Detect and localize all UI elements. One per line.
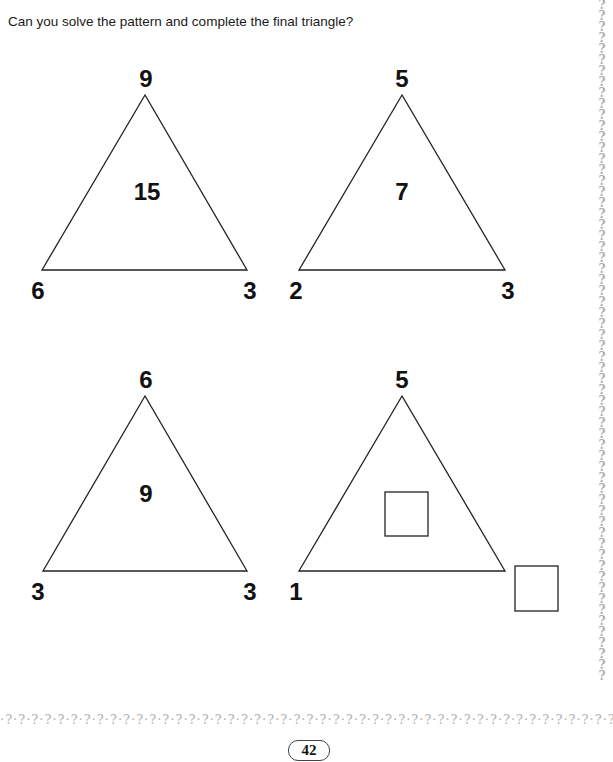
triangle-4-top-number: 5: [395, 366, 408, 393]
triangle-puzzle: 9 15 6 3 5 7 2 3 6 9 3 3 5 1: [0, 0, 613, 762]
triangle-4: 5 1: [289, 366, 558, 611]
bottom-decorative-border: ·?·?·?·?·?·?·?·?·?·?·?·?·?·?·?·?·?·?·?·?…: [0, 712, 613, 730]
triangle-1-top-number: 9: [139, 65, 152, 92]
triangle-1-right-number: 3: [243, 277, 256, 304]
right-corner-answer-box[interactable]: [515, 566, 558, 611]
triangle-2-right-number: 3: [501, 277, 514, 304]
triangle-4-left-number: 1: [289, 578, 302, 605]
triangle-2: 5 7 2 3: [289, 65, 514, 304]
page-number: 42: [288, 740, 330, 761]
triangle-3-center-number: 9: [139, 480, 152, 507]
right-decorative-border: ? ? ? ? ? ? ? ? ? ? ? ? ? ? ? ? ? ? ? ? …: [591, 0, 613, 705]
triangle-2-top-number: 5: [395, 65, 408, 92]
triangle-1-center-number: 15: [134, 178, 161, 205]
triangle-3-right-number: 3: [243, 578, 256, 605]
triangle-4-shape: [299, 396, 505, 571]
triangle-3-left-number: 3: [31, 578, 44, 605]
triangle-1-left-number: 6: [31, 277, 44, 304]
triangle-3: 6 9 3 3: [31, 366, 256, 605]
triangle-3-top-number: 6: [139, 366, 152, 393]
triangle-1: 9 15 6 3: [31, 65, 256, 304]
triangle-2-center-number: 7: [395, 178, 408, 205]
center-answer-box[interactable]: [385, 492, 428, 536]
triangle-2-left-number: 2: [289, 277, 302, 304]
question-mark-border-pattern: ? ? ? ? ? ? ? ? ? ? ? ? ? ? ? ? ? ? ? ? …: [596, 0, 608, 682]
